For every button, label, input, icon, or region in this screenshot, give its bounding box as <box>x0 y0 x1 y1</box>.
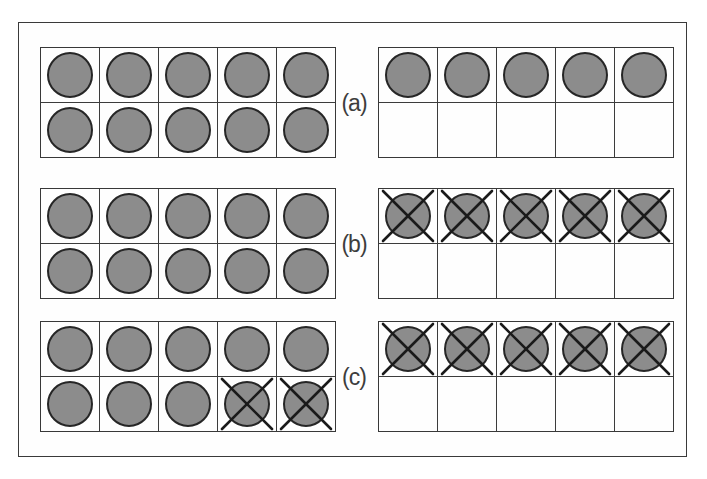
counter <box>283 326 329 372</box>
row-label-a: (a) <box>330 47 378 159</box>
counter <box>224 107 270 153</box>
ten-frame-cell <box>41 189 99 243</box>
ten-frame-cell <box>497 103 555 157</box>
ten-frame-cell <box>277 48 335 102</box>
row-label-b: (b) <box>330 188 378 300</box>
ten-frame-cell <box>100 103 158 157</box>
counter <box>503 52 549 98</box>
counter <box>165 248 211 294</box>
ten-frame-cell <box>556 189 614 243</box>
ten-frame-cell <box>438 48 496 102</box>
ten-frame-cell <box>159 244 217 298</box>
ten-frame-cell <box>379 189 437 243</box>
counter <box>224 326 270 372</box>
crossed-counter <box>283 381 329 427</box>
ten-frame-b-left <box>40 188 336 299</box>
counter <box>106 381 152 427</box>
ten-frame-c-left <box>40 321 336 432</box>
figure-canvas: (a) (b) (c) <box>0 0 707 479</box>
counter <box>47 107 93 153</box>
ten-frame-cell <box>379 377 437 431</box>
ten-frame-cell <box>159 189 217 243</box>
crossed-counter <box>444 326 490 372</box>
counter <box>47 381 93 427</box>
ten-frame-cell <box>615 103 673 157</box>
ten-frame-cell <box>556 377 614 431</box>
ten-frame-cell <box>615 189 673 243</box>
crossed-counter <box>503 193 549 239</box>
counter <box>165 107 211 153</box>
crossed-counter <box>621 193 667 239</box>
ten-frame-cell <box>100 189 158 243</box>
ten-frame-cell <box>159 48 217 102</box>
crossed-counter <box>503 326 549 372</box>
ten-frame-cell <box>159 322 217 376</box>
ten-frame-cell <box>556 322 614 376</box>
ten-frame-a-left <box>40 47 336 158</box>
row-label-c: (c) <box>330 321 378 433</box>
ten-frame-cell <box>277 244 335 298</box>
counter <box>165 381 211 427</box>
counter <box>165 52 211 98</box>
row-a: (a) <box>0 47 707 159</box>
ten-frame-cell <box>556 103 614 157</box>
ten-frame-cell <box>438 377 496 431</box>
ten-frame-cell <box>100 244 158 298</box>
ten-frame-a-right <box>378 47 674 158</box>
ten-frame-cell <box>379 48 437 102</box>
counter <box>106 52 152 98</box>
ten-frame-cell <box>615 48 673 102</box>
ten-frame-cell <box>41 377 99 431</box>
counter <box>165 193 211 239</box>
counter <box>165 326 211 372</box>
ten-frame-cell <box>438 103 496 157</box>
counter <box>621 52 667 98</box>
ten-frame-cell <box>379 244 437 298</box>
ten-frame-cell <box>497 377 555 431</box>
counter <box>444 52 490 98</box>
counter <box>47 52 93 98</box>
row-b: (b) <box>0 188 707 300</box>
counter <box>106 248 152 294</box>
ten-frame-cell <box>218 189 276 243</box>
ten-frame-cell <box>218 244 276 298</box>
ten-frame-cell <box>218 377 276 431</box>
ten-frame-cell <box>159 103 217 157</box>
ten-frame-cell <box>100 322 158 376</box>
crossed-counter <box>385 193 431 239</box>
crossed-counter <box>385 326 431 372</box>
ten-frame-cell <box>379 103 437 157</box>
counter <box>562 52 608 98</box>
crossed-counter <box>444 193 490 239</box>
ten-frame-cell <box>497 48 555 102</box>
counter <box>385 52 431 98</box>
crossed-counter <box>562 326 608 372</box>
ten-frame-cell <box>438 244 496 298</box>
ten-frame-cell <box>556 48 614 102</box>
ten-frame-cell <box>41 322 99 376</box>
ten-frame-cell <box>277 189 335 243</box>
ten-frame-cell <box>41 48 99 102</box>
counter <box>224 248 270 294</box>
ten-frame-cell <box>100 48 158 102</box>
ten-frame-cell <box>218 322 276 376</box>
counter <box>283 52 329 98</box>
ten-frame-cell <box>615 244 673 298</box>
ten-frame-cell <box>218 48 276 102</box>
ten-frame-cell <box>41 244 99 298</box>
ten-frame-cell <box>615 322 673 376</box>
ten-frame-cell <box>159 377 217 431</box>
ten-frame-b-right <box>378 188 674 299</box>
counter <box>47 193 93 239</box>
counter <box>283 107 329 153</box>
crossed-counter <box>224 381 270 427</box>
counter <box>106 326 152 372</box>
counter <box>47 326 93 372</box>
ten-frame-cell <box>438 189 496 243</box>
ten-frame-cell <box>379 322 437 376</box>
ten-frame-cell <box>41 103 99 157</box>
crossed-counter <box>621 326 667 372</box>
ten-frame-cell <box>100 377 158 431</box>
row-c: (c) <box>0 321 707 433</box>
ten-frame-cell <box>438 322 496 376</box>
